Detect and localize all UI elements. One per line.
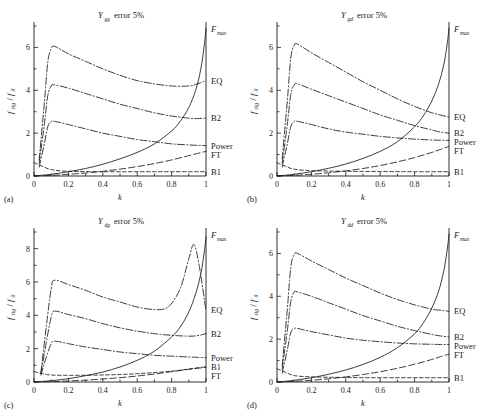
y-tick-label: 6 xyxy=(26,43,30,52)
panel-title: Ygderror 5% xyxy=(341,10,387,22)
panel-id-label: (b) xyxy=(247,194,257,204)
svg-text:Y: Y xyxy=(98,216,104,226)
y-tick-label: 0 xyxy=(26,172,30,181)
curve-ft xyxy=(34,151,206,176)
x-tick-label: 0.6 xyxy=(375,386,385,395)
svg-text:sig: sig xyxy=(253,103,259,110)
curve-power xyxy=(39,121,206,167)
curve-label-fmax-sub: max xyxy=(217,30,227,36)
y-tick-label: 4 xyxy=(269,292,273,301)
curve-label-ft: FT xyxy=(454,350,465,360)
curve-eq xyxy=(282,253,449,366)
curve-eq xyxy=(282,43,449,158)
panel-b: Ygderror 5%00.20.40.60.810246kfsig/f0Fma… xyxy=(243,0,486,206)
svg-text:sig: sig xyxy=(10,103,16,110)
svg-text:Y: Y xyxy=(341,216,347,226)
curve-labels: FmaxEQB2PowerB1FT xyxy=(210,230,233,381)
x-tick-label: 0.2 xyxy=(306,180,316,189)
curve-b2 xyxy=(41,311,206,374)
curve-label-fmax-sub: max xyxy=(460,30,470,36)
x-tick-label: 0 xyxy=(32,386,36,395)
x-tick-label: 0 xyxy=(32,180,36,189)
curve-b2 xyxy=(282,291,449,369)
svg-text:dg: dg xyxy=(105,222,111,228)
panel-a: Yggerror 5%00.20.40.60.810246kfsig/f0Fma… xyxy=(0,0,243,206)
x-tick-label: 0 xyxy=(275,386,279,395)
panel-title: Yggerror 5% xyxy=(98,10,144,22)
axis-ticks: 00.20.40.60.810246 xyxy=(269,26,451,189)
x-tick-label: 0.4 xyxy=(341,180,351,189)
y-tick-label: 4 xyxy=(26,86,30,95)
y-axis-label: fsig/f0 xyxy=(5,295,16,321)
y-axis-label: fsig/f0 xyxy=(248,295,259,321)
curve-b1 xyxy=(34,367,206,376)
y-tick-label: 0 xyxy=(269,378,273,387)
svg-text:error 5%: error 5% xyxy=(114,10,144,20)
axes xyxy=(34,228,206,382)
svg-text:f: f xyxy=(5,110,15,114)
curve-f-max xyxy=(34,237,206,382)
x-tick-label: 0.2 xyxy=(306,386,316,395)
x-axis-label: k xyxy=(361,398,365,408)
curve-label-b2: B2 xyxy=(211,113,221,123)
figure-container: Yggerror 5%00.20.40.60.810246kfsig/f0Fma… xyxy=(0,0,487,413)
x-tick-label: 0.8 xyxy=(410,180,420,189)
panel-title: Ydgerror 5% xyxy=(98,216,144,228)
y-tick-label: 4 xyxy=(269,86,273,95)
axis-ticks: 00.20.40.60.810246 xyxy=(269,232,451,395)
y-tick-label: 2 xyxy=(269,129,273,138)
x-tick-label: 0.8 xyxy=(167,386,177,395)
x-tick-label: 1 xyxy=(447,386,451,395)
y-tick-label: 6 xyxy=(269,249,273,258)
panel-d: Ydderror 5%00.20.40.60.810246kfsig/f0Fma… xyxy=(243,206,486,412)
y-tick-label: 4 xyxy=(26,311,30,320)
x-tick-label: 0.6 xyxy=(375,180,385,189)
panel-title: Ydderror 5% xyxy=(341,216,387,228)
svg-text:0: 0 xyxy=(10,89,16,92)
curve-label-b1: B1 xyxy=(454,373,464,383)
axis-ticks: 00.20.40.60.810246 xyxy=(26,26,208,189)
x-tick-label: 0.8 xyxy=(410,386,420,395)
x-tick-label: 1 xyxy=(447,180,451,189)
svg-text:/: / xyxy=(6,304,15,307)
y-tick-label: 0 xyxy=(26,378,30,387)
curve-power xyxy=(282,328,449,373)
curve-label-fmax: F xyxy=(453,24,460,34)
y-tick-label: 8 xyxy=(26,245,30,254)
svg-text:sig: sig xyxy=(10,309,16,316)
svg-text:dd: dd xyxy=(348,222,354,228)
x-tick-label: 0.6 xyxy=(132,386,142,395)
curve-label-fmax: F xyxy=(210,230,217,240)
curve-label-b1: B1 xyxy=(211,167,221,177)
x-tick-label: 1 xyxy=(204,386,208,395)
axes xyxy=(34,22,206,176)
y-tick-label: 2 xyxy=(269,335,273,344)
curve-b1 xyxy=(34,163,206,172)
curve-label-fmax-sub: max xyxy=(217,236,227,242)
svg-text:sig: sig xyxy=(253,309,259,316)
y-axis-label: fsig/f0 xyxy=(5,89,16,115)
curves xyxy=(34,237,206,382)
x-tick-label: 0.2 xyxy=(63,386,73,395)
x-axis-label: k xyxy=(118,398,122,408)
svg-text:f: f xyxy=(248,316,258,320)
curve-b1 xyxy=(277,163,449,172)
svg-text:0: 0 xyxy=(10,295,16,298)
curve-labels: FmaxEQB2PowerFTB1 xyxy=(210,24,233,177)
curve-label-fmax-sub: max xyxy=(460,236,470,242)
svg-text:/: / xyxy=(249,98,258,101)
curve-f-max xyxy=(277,28,449,176)
curve-label-b1: B1 xyxy=(454,167,464,177)
curve-label-ft: FT xyxy=(454,146,465,156)
svg-text:gg: gg xyxy=(105,16,111,22)
svg-text:0: 0 xyxy=(253,89,259,92)
x-tick-label: 1 xyxy=(204,180,208,189)
y-axis-label: fsig/f0 xyxy=(248,89,259,115)
svg-text:0: 0 xyxy=(253,295,259,298)
curves xyxy=(277,28,449,176)
panel-id-label: (d) xyxy=(247,400,257,410)
svg-text:/: / xyxy=(249,304,258,307)
svg-text:f: f xyxy=(248,110,258,114)
curves xyxy=(277,234,449,382)
curve-b2 xyxy=(39,85,206,164)
